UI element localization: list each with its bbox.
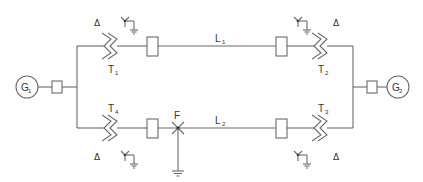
wye-ground-t3 [294, 151, 311, 168]
fault-label: F [174, 110, 180, 121]
line-l1-subscript: 1 [222, 39, 226, 45]
delta-label-t1: Δ [94, 18, 101, 28]
generator-g1: G 1 [16, 76, 38, 98]
breaker-top-right [276, 37, 287, 56]
transformer-t2-subscript: 2 [325, 70, 329, 76]
transformer-t4-subscript: 4 [115, 109, 119, 115]
transformer-t2: T 2 [312, 33, 329, 76]
transformer-t3-subscript: 3 [325, 109, 329, 115]
fault-point: F [172, 110, 184, 176]
transformer-t1-subscript: 1 [115, 70, 119, 76]
power-system-diagram: G 1 T 1 Δ L 1 T 2 Δ [0, 0, 423, 182]
delta-label-t3: Δ [333, 152, 340, 162]
generator-g1-subscript: 1 [28, 88, 32, 94]
breaker-g2 [367, 81, 377, 93]
transformer-t1: T 1 [102, 33, 119, 76]
transformer-t1-label: T [108, 64, 114, 75]
breaker-g1 [52, 81, 62, 93]
wye-ground-t4 [121, 151, 138, 168]
line-l2-subscript: 2 [222, 121, 226, 127]
delta-label-t4: Δ [94, 152, 101, 162]
wye-ground-t1 [121, 17, 138, 34]
transformer-t3: T 3 [312, 103, 329, 141]
delta-label-t2: Δ [333, 18, 340, 28]
transformer-t2-label: T [318, 64, 324, 75]
generator-g2-subscript: 2 [399, 88, 403, 94]
breaker-top-left [147, 37, 158, 56]
wye-ground-t2 [294, 17, 311, 34]
generator-g2: G 2 [387, 76, 409, 98]
breaker-bottom-right [276, 119, 287, 138]
transformer-t3-label: T [318, 103, 324, 114]
transformer-t4-label: T [108, 103, 114, 114]
breaker-bottom-left [147, 119, 158, 138]
transformer-t4: T 4 [102, 103, 119, 141]
line-l2-label: L [215, 115, 221, 126]
line-l1-label: L [215, 33, 221, 44]
